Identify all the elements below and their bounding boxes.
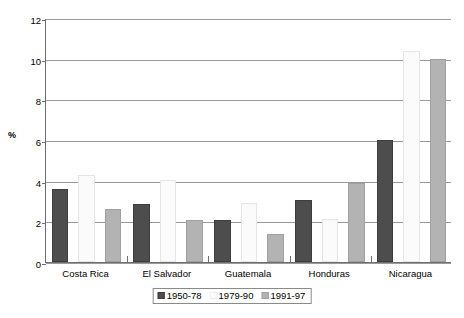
legend-item[interactable]: 1991-97 [261,291,305,301]
y-tick-label: 0 [36,259,41,270]
category-label: Costa Rica [62,268,108,279]
bar [430,59,447,262]
bar [133,204,150,262]
legend-item[interactable]: 1950-78 [158,291,202,301]
category-label: El Salvador [143,268,192,279]
bar-group [290,19,371,262]
bar-group [371,19,452,262]
y-axis-title: % [8,130,16,140]
y-tick-label: 2 [36,218,41,229]
y-tick-label: 4 [36,177,41,188]
bars-layer [46,19,451,262]
legend-item[interactable]: 1979-90 [210,291,254,301]
bar [52,189,69,262]
bar-group [208,19,289,262]
bar [105,209,122,262]
y-tick-label: 10 [30,55,41,66]
legend-swatch-icon [158,292,165,299]
y-tick-label: 8 [36,96,41,107]
legend-swatch-icon [261,292,268,299]
bar [160,180,177,262]
chart-legend: 1950-781979-901991-97 [153,288,312,304]
bar [295,200,312,262]
bar-group [127,19,208,262]
category-label: Guatemala [225,268,271,279]
bar [348,183,365,262]
category-label: Nicaragua [389,268,432,279]
bar [241,203,258,262]
bar [78,175,95,262]
bar [403,51,420,262]
bar [322,219,339,262]
bar [377,140,394,262]
legend-swatch-icon [210,292,217,299]
bar [214,220,231,262]
legend-label: 1950-78 [167,291,202,301]
legend-label: 1991-97 [270,291,305,301]
y-tick-label: 6 [36,137,41,148]
category-label: Honduras [309,268,350,279]
bar-group [46,19,127,262]
plot-area: 024681012 [45,19,451,263]
y-tick-label: 12 [30,15,41,26]
bar [186,220,203,262]
bar-chart: % 024681012 Costa RicaEl SalvadorGuatema… [0,0,464,318]
y-tick-mark [42,264,46,265]
bar [267,234,284,262]
legend-label: 1979-90 [219,291,254,301]
gridline: 0 [46,263,451,264]
category-axis-labels: Costa RicaEl SalvadorGuatemalaHondurasNi… [45,268,451,282]
